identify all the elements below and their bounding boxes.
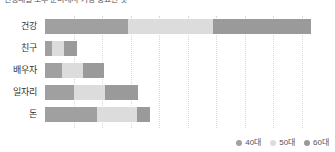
stacked-bar[interactable] — [45, 107, 150, 122]
chart-title-clipped: 연령대별 노후 준비에서 가장 중요한 것 — [4, 0, 254, 7]
bar-segment[interactable] — [83, 63, 104, 78]
category-label: 일자리 — [0, 84, 41, 100]
bar-row: 돈 — [0, 106, 335, 122]
bar-segment[interactable] — [105, 85, 138, 100]
bar-segment[interactable] — [45, 107, 97, 122]
legend-item[interactable]: 40대 — [236, 139, 261, 147]
legend-label: 40대 — [245, 139, 261, 147]
bar-segment[interactable] — [45, 63, 62, 78]
legend-dot-icon — [270, 140, 276, 146]
stacked-bar[interactable] — [45, 63, 104, 78]
category-label: 돈 — [0, 106, 41, 122]
bar-segment[interactable] — [52, 41, 64, 56]
bar-segment[interactable] — [64, 41, 77, 56]
bar-row: 일자리 — [0, 84, 335, 100]
category-label: 건강 — [0, 18, 41, 34]
bar-row: 배우자 — [0, 62, 335, 78]
bar-row: 건강 — [0, 18, 335, 34]
bar-segment[interactable] — [45, 85, 74, 100]
legend-dot-icon — [304, 140, 310, 146]
chart-title: 연령대별 노후 준비에서 가장 중요한 것 — [4, 0, 254, 4]
bar-segment[interactable] — [97, 107, 137, 122]
chart-container: 연령대별 노후 준비에서 가장 중요한 것 건강친구배우자일자리돈 40대50대… — [0, 0, 335, 152]
category-label: 친구 — [0, 40, 41, 56]
bar-segment[interactable] — [137, 107, 150, 122]
legend-label: 60대 — [313, 139, 329, 147]
stacked-bar[interactable] — [45, 19, 311, 34]
bar-segment[interactable] — [45, 19, 128, 34]
bar-rows: 건강친구배우자일자리돈 — [0, 16, 335, 128]
chart-legend: 40대50대60대 — [0, 139, 329, 147]
bar-segment[interactable] — [74, 85, 104, 100]
stacked-bar[interactable] — [45, 41, 77, 56]
legend-dot-icon — [236, 140, 242, 146]
bar-row: 친구 — [0, 40, 335, 56]
bar-segment[interactable] — [45, 41, 52, 56]
category-label: 배우자 — [0, 62, 41, 78]
legend-item[interactable]: 60대 — [304, 139, 329, 147]
bar-segment[interactable] — [62, 63, 83, 78]
bar-segment[interactable] — [128, 19, 214, 34]
legend-label: 50대 — [279, 139, 295, 147]
legend-item[interactable]: 50대 — [270, 139, 295, 147]
stacked-bar[interactable] — [45, 85, 138, 100]
bar-segment[interactable] — [213, 19, 311, 34]
